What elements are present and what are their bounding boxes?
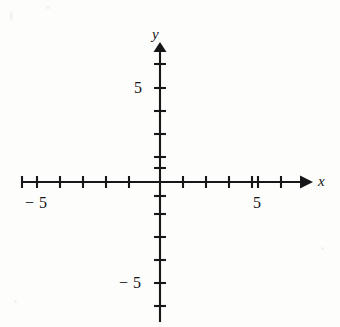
x-axis <box>22 176 313 189</box>
x-tick-label--5: − 5 <box>25 195 48 211</box>
x-tick-label-5: 5 <box>253 195 262 211</box>
y-axis-arrowhead <box>154 42 167 52</box>
y-axis-label: y <box>152 27 159 42</box>
axes-drawing <box>0 0 340 327</box>
y-tick-label--5: − 5 <box>119 275 142 291</box>
y-tick-label-5: 5 <box>134 80 143 96</box>
x-axis-arrowhead <box>300 176 313 189</box>
x-axis-label: x <box>318 174 325 189</box>
coordinate-grid-figure: y x − 5 5 5 − 5 <box>0 0 340 327</box>
